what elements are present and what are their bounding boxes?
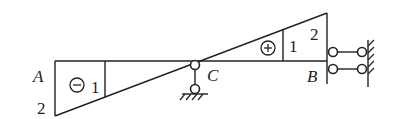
ordinate-left-end: 2 [37,99,46,118]
ordinate-left-mid: 1 [91,78,100,97]
label-b: B [307,67,318,86]
influence-line-diagram: A 2 1 C B 1 2 [0,0,403,119]
ordinate-right-mid: 1 [289,37,298,56]
label-a: A [32,67,44,86]
label-c: C [207,66,219,85]
negative-sign-icon [70,78,84,92]
ordinate-right-end: 2 [310,25,319,44]
positive-sign-icon [261,41,275,55]
link-support-icon [329,40,375,87]
